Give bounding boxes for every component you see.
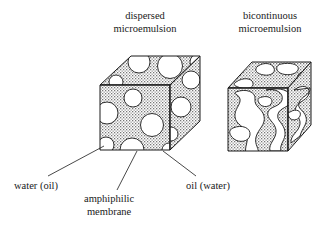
title-bicontinuous-microemulsion: bicontinuous microemulsion (215, 10, 325, 35)
label-water-oil: water (oil) (14, 180, 58, 193)
label-amphiphilic-membrane: amphiphilic membrane (84, 193, 134, 218)
leader-membrane (117, 151, 137, 190)
bicontinuous-cube (228, 62, 311, 154)
label-oil-water: oil (water) (186, 180, 230, 193)
bicont-front-face (228, 88, 291, 154)
dispersed-cube (96, 51, 206, 162)
cube-front-face (96, 85, 176, 162)
title-dispersed-microemulsion: dispersed microemulsion (90, 10, 200, 35)
leader-water (48, 146, 104, 176)
leader-oil (163, 151, 196, 176)
leader-lines (48, 146, 196, 190)
microemulsion-figure: dispersed microemulsion bicontinuous mic… (0, 0, 335, 229)
